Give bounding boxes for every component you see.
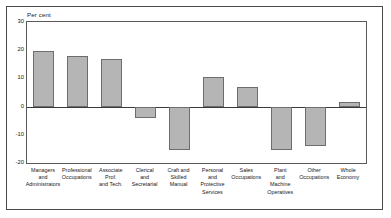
bar	[271, 107, 292, 151]
x-axis-category-label: Whole Economy	[328, 167, 368, 181]
bar	[305, 107, 326, 146]
bar	[203, 77, 224, 107]
bar	[237, 87, 258, 106]
bar	[67, 56, 88, 107]
y-axis-tick: 20	[6, 47, 24, 53]
y-axis-tick: 10	[6, 75, 24, 81]
y-axis-tick: -20	[6, 160, 24, 166]
y-axis-tick: 30	[6, 19, 24, 25]
bar	[169, 107, 190, 150]
bar	[339, 102, 360, 106]
x-axis-category-labels: Managers and AdministratorsProfessional …	[26, 167, 367, 212]
y-axis-tick: 0	[6, 104, 24, 110]
bar	[135, 107, 156, 119]
bar	[101, 59, 122, 106]
bar	[33, 51, 54, 107]
y-axis-unit-label: Per cent	[27, 11, 51, 18]
plot-area	[27, 22, 366, 163]
y-axis-tick-labels: 3020100-10-20	[4, 0, 24, 218]
y-axis-tick: -10	[6, 132, 24, 138]
chart-figure: Per cent 3020100-10-20 Managers and Admi…	[0, 0, 391, 218]
